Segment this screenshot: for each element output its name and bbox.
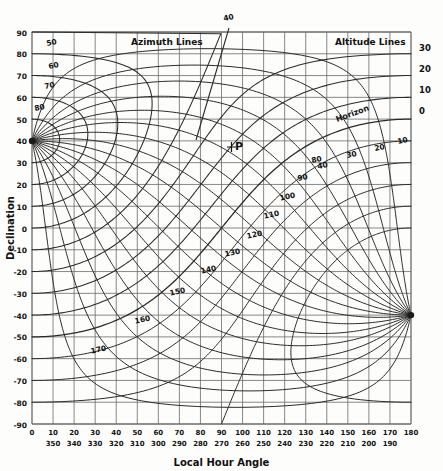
x-axis-tick-label-primary: 70 [175,429,185,437]
azimuth-curve-label: 140 [200,264,217,276]
x-axis-tick-label-secondary: 230 [298,440,313,448]
x-axis-tick-label-primary: 0 [30,429,35,437]
y-axis-tick-label: 50 [17,116,27,125]
pole-marker-label: P [235,140,243,153]
y-axis-tick-label: 40 [17,137,27,146]
altitude-curve-label: 10 [396,135,408,146]
y-axis-tick-label: -90 [13,421,27,430]
x-axis-tick-label-secondary: 350 [46,440,61,448]
x-axis-tick-label-secondary: 250 [256,440,271,448]
x-axis-tick-label-primary: 80 [196,429,206,437]
altitude-curve-label: 20 [373,142,385,153]
x-axis-tick-label-secondary: 260 [235,440,250,448]
azimuth-curve-label: 130 [224,247,241,259]
x-axis-tick-label-primary: 30 [90,429,100,437]
x-axis-tick-label-primary: 20 [69,429,79,437]
y-axis-tick-label: 90 [17,29,27,38]
x-axis-tick-label-primary: 60 [153,429,163,437]
azimuth-curve-label: 50 [45,37,57,48]
x-axis-tick-label-secondary: 310 [130,440,145,448]
x-axis-title: Local Hour Angle [174,457,270,468]
x-axis-tick-label-primary: 150 [341,429,356,437]
chart-canvas: P9080706050403020100-10-20-30-40-50-60-7… [0,0,443,471]
y-axis-tick-label: 80 [17,50,27,59]
x-axis-tick-label-secondary: 240 [277,440,292,448]
x-axis-tick-label-primary: 40 [111,429,121,437]
x-axis-tick-label-primary: 100 [235,429,250,437]
y-axis-tick-label: -50 [13,333,27,342]
x-axis-tick-label-secondary: 210 [341,440,356,448]
y-axis-tick-label: -80 [13,399,27,408]
x-axis-tick-label-primary: 140 [319,429,334,437]
y-axis-tick-label: 60 [17,94,27,103]
x-axis-tick-label-primary: 170 [383,429,398,437]
y-axis-tick-label: 70 [17,72,27,81]
y-axis-tick-label: -40 [13,312,27,321]
x-axis-tick-label-primary: 90 [217,429,227,437]
azimuth-curve-label: 110 [263,209,280,221]
y-axis-tick-label: -20 [13,268,27,277]
x-axis-tick-label-secondary: 220 [319,440,334,448]
azimuth-curve-label: 90 [296,172,308,183]
azimuth-curve-label: 40 [222,12,234,23]
x-axis-tick-label-primary: 50 [132,429,142,437]
pole-convergence-point [29,138,35,144]
x-axis-tick-label-primary: 130 [298,429,313,437]
y-axis-tick-label: 0 [22,225,27,234]
x-axis-tick-label-secondary: 320 [109,440,124,448]
azimuth-curve-label: 60 [47,60,59,71]
altitude-curve-label: 30 [345,149,357,160]
y-axis-tick-label: 30 [17,159,27,168]
x-axis-tick-label-secondary: 330 [88,440,103,448]
x-axis-tick-label-secondary: 290 [172,440,187,448]
azimuth-lines-annotation: Azimuth Lines [131,37,203,47]
y-axis-tick-label: 10 [17,203,27,212]
y-axis-tick-label: -60 [13,355,27,364]
azimuth-curve-label: 150 [169,286,186,298]
y-axis-tick-label: -30 [13,290,27,299]
x-axis-tick-label-primary: 120 [277,429,292,437]
x-axis-tick-label-primary: 110 [256,429,271,437]
right-axis-tick-label: 20 [419,64,431,74]
x-axis-tick-label-secondary: 280 [193,440,208,448]
x-axis-tick-label-secondary: 190 [383,440,398,448]
antipole-convergence-point [408,312,414,318]
azimuth-curve-label: 120 [246,229,263,241]
azimuth-curve-label: 80 [33,102,45,113]
x-axis-tick-label-secondary: 200 [362,440,377,448]
azimuth-curve-label: 100 [279,191,296,203]
x-axis-tick-label-primary: 10 [48,429,58,437]
solar-position-chart: P9080706050403020100-10-20-30-40-50-60-7… [0,0,443,471]
y-axis-tick-label: 20 [17,181,27,190]
x-axis-tick-label-primary: 160 [362,429,377,437]
x-axis-tick-label-secondary: 270 [214,440,229,448]
azimuth-curve-label: 160 [134,314,151,326]
altitude-lines-annotation: Altitude Lines [335,37,406,47]
azimuth-curve-label: 70 [43,80,55,91]
x-axis-tick-label-secondary: 300 [151,440,166,448]
right-axis-tick-label: 10 [419,85,431,95]
right-axis-tick-label: 30 [419,43,431,53]
azimuth-curve-label: 170 [90,344,107,356]
x-axis-tick-label-primary: 180 [404,429,419,437]
x-axis-tick-label-secondary: 340 [67,440,82,448]
right-axis-tick-label: 0 [419,106,425,116]
y-axis-tick-label: -70 [13,377,27,386]
y-axis-title: Declination [5,196,16,260]
